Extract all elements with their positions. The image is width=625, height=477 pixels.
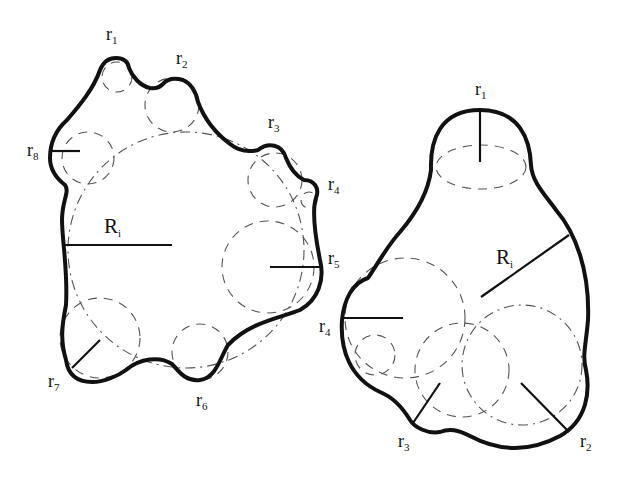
right-label-r3: r3	[398, 431, 410, 453]
left-label-r3: r3	[268, 112, 280, 134]
left-construction-circles	[60, 62, 317, 380]
diagram-figure: r1 r2 r3 r4 r5 r6 r7 r8 Ri r1 r2 r3 r4 R…	[0, 0, 625, 477]
right-r2-line	[521, 383, 569, 432]
right-label-r4: r4	[319, 316, 331, 338]
left-label-r7: r7	[48, 371, 60, 393]
left-label-r6: r6	[196, 390, 208, 412]
right-label-inner-radius: Ri	[496, 245, 513, 270]
left-label-inner-radius: Ri	[104, 214, 121, 239]
left-label-r4: r4	[328, 174, 340, 196]
right-label-r2: r2	[580, 431, 592, 453]
left-shape: r1 r2 r3 r4 r5 r6 r7 r8 Ri	[27, 24, 340, 412]
left-r7-line	[72, 340, 100, 368]
right-inner-radius-line	[481, 235, 569, 297]
right-construction-circles	[345, 145, 582, 425]
right-shape-outline	[342, 110, 588, 448]
left-label-r8: r8	[27, 140, 39, 162]
left-label-r1: r1	[106, 24, 118, 46]
left-shape-outline	[50, 58, 322, 382]
right-r3-line	[413, 383, 440, 423]
left-label-r5: r5	[328, 248, 340, 270]
right-shape: r1 r2 r3 r4 Ri	[319, 79, 592, 453]
right-label-r1: r1	[475, 79, 487, 101]
left-label-r2: r2	[176, 48, 188, 70]
